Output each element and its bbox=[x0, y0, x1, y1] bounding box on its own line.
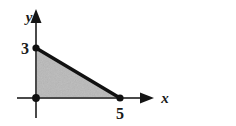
triangle-region-figure: 3 5 y x bbox=[0, 0, 236, 126]
y-intercept-tick-label: 3 bbox=[21, 40, 29, 57]
x-intercept-tick-label: 5 bbox=[116, 105, 124, 122]
vertex-dot-x-intercept bbox=[116, 94, 123, 101]
vertex-dot-y-intercept bbox=[32, 44, 39, 51]
y-axis-label: y bbox=[24, 9, 33, 25]
vertex-dot-origin bbox=[32, 94, 40, 102]
figure-container: 3 5 y x bbox=[0, 0, 236, 126]
x-axis-label: x bbox=[160, 90, 169, 106]
